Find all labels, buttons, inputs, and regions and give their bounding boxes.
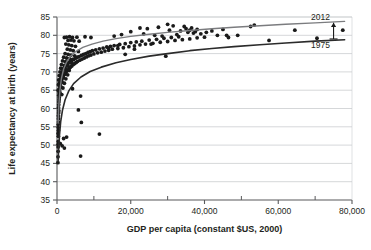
y-tick-label: 50 [41,140,51,150]
data-point [138,43,142,47]
data-point [149,42,153,46]
data-point [129,41,133,45]
y-axis-title: Life expectancy at birth (years) [7,42,17,175]
data-point [77,39,81,43]
data-point [160,34,164,38]
data-point [147,38,151,42]
data-point [62,137,66,141]
data-point [92,52,96,56]
data-point [98,47,102,51]
x-axis-tick-labels: 020,00040,00060,00080,000 [55,206,366,216]
data-point [83,35,87,39]
y-axis-ticks [53,17,57,200]
data-point [79,154,83,158]
data-point [60,93,64,97]
data-point [99,50,103,54]
data-point [66,73,70,77]
data-point [75,35,79,39]
data-point [107,46,111,50]
data-point [169,36,173,40]
data-point [145,27,149,31]
data-point [166,22,170,26]
x-tick-label: 60,000 [265,206,291,216]
data-point [98,132,102,136]
curve-label-1975: 1975 [311,40,330,50]
data-point [112,44,116,48]
data-point [64,77,68,81]
data-point [203,35,207,39]
data-point [133,47,137,51]
data-point [140,39,144,43]
x-tick-label: 80,000 [339,206,365,216]
data-point [144,42,148,46]
data-point [190,26,194,30]
x-axis-title: GDP per capita (constant $US, 2000) [127,224,282,234]
data-point [89,36,93,40]
data-point [267,39,271,43]
data-point [175,33,179,37]
data-point [112,34,116,38]
data-point [127,45,131,49]
data-point [199,32,203,36]
data-point [79,121,83,125]
y-tick-label: 35 [41,195,51,205]
y-axis-tick-labels: 3540455055606570758085 [41,12,51,205]
data-point [62,81,66,85]
data-point [69,61,73,65]
data-point [134,40,138,44]
data-point [94,48,98,52]
data-point [61,86,65,90]
data-point [91,49,95,53]
data-point [76,108,80,112]
y-tick-label: 75 [41,49,51,59]
x-tick-label: 20,000 [118,206,144,216]
data-point [158,40,162,44]
x-tick-label: 40,000 [192,206,218,216]
curve-label-2012: 2012 [311,12,330,22]
y-tick-label: 40 [41,177,51,187]
data-point [70,44,74,48]
y-tick-label: 55 [41,122,51,132]
data-point [227,36,231,40]
data-point [171,24,175,28]
data-point [195,36,199,40]
data-point [129,30,133,34]
data-point [79,94,83,98]
data-point [120,33,124,37]
life-expectancy-vs-gdp-scatter-chart: 20121975 020,00040,00060,00080,000 35404… [0,0,371,250]
data-point [341,28,345,32]
data-point [155,37,159,41]
data-point [67,69,71,73]
data-point [204,30,208,34]
data-point [138,26,142,30]
data-point [72,39,76,43]
data-point [74,44,78,48]
data-point [68,65,72,69]
data-point [116,44,120,48]
data-point [216,33,220,37]
data-point [133,44,137,48]
data-point [180,38,184,42]
data-point [236,33,240,37]
x-tick-label: 0 [55,206,60,216]
y-tick-label: 80 [41,30,51,40]
data-point [123,52,127,56]
y-tick-label: 60 [41,104,51,114]
figure-container: 20121975 020,00040,00060,00080,000 35404… [0,0,371,250]
y-tick-label: 70 [41,67,51,77]
data-point [188,37,192,41]
data-point [71,58,75,62]
y-tick-label: 65 [41,85,51,95]
data-point [123,42,127,46]
data-point [157,25,161,29]
data-point [166,40,170,44]
data-point [101,46,105,50]
y-tick-label: 45 [41,158,51,168]
data-point [121,46,125,50]
data-point [173,39,177,43]
data-point [210,29,214,33]
data-point [293,28,297,32]
y-tick-label: 85 [41,12,51,22]
